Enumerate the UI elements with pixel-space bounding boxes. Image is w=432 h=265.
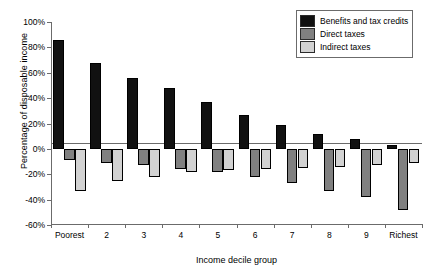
bar — [138, 149, 149, 165]
x-axis-tick-label: 3 — [141, 230, 146, 240]
x-axis-tick-mark — [162, 224, 163, 228]
x-axis-tick-mark — [88, 224, 89, 228]
legend-item-label: Benefits and tax credits — [320, 16, 408, 26]
bar — [324, 149, 335, 191]
legend-item-label: Direct taxes — [320, 29, 365, 39]
bar — [127, 78, 138, 149]
y-axis-tick-mark — [47, 124, 51, 125]
bar — [112, 149, 123, 181]
bar — [313, 134, 324, 149]
x-axis-tick-label: 4 — [178, 230, 183, 240]
legend-item: Benefits and tax credits — [300, 15, 408, 27]
bar — [212, 149, 223, 172]
x-axis-tick-label: 6 — [253, 230, 258, 240]
bar — [350, 139, 361, 149]
bar — [223, 149, 234, 171]
bar — [287, 149, 298, 183]
y-axis-tick-mark — [47, 73, 51, 74]
legend-item: Indirect taxes — [300, 41, 408, 53]
bar — [276, 125, 287, 149]
bar — [298, 149, 309, 168]
x-axis-tick-label: 5 — [216, 230, 221, 240]
bar — [250, 149, 261, 177]
y-axis-tick-mark — [47, 98, 51, 99]
x-axis-tick-label: 8 — [327, 230, 332, 240]
x-axis-tick-mark — [237, 224, 238, 228]
y-axis-tick-mark — [47, 149, 51, 150]
y-axis-tick-mark — [47, 47, 51, 48]
legend-item: Direct taxes — [300, 28, 408, 40]
bar — [372, 149, 383, 165]
x-axis-tick-mark — [422, 224, 423, 228]
bar — [175, 149, 186, 169]
legend-swatch-icon — [300, 28, 315, 40]
bar — [361, 149, 372, 197]
x-axis-tick-label: 2 — [104, 230, 109, 240]
legend-item-label: Indirect taxes — [320, 42, 371, 52]
bar — [398, 149, 409, 210]
x-axis-tick-mark — [125, 224, 126, 228]
bar — [64, 149, 75, 160]
y-axis-line — [51, 22, 52, 225]
bar — [53, 40, 64, 149]
x-axis-tick-mark — [311, 224, 312, 228]
bar — [261, 149, 272, 169]
bar — [239, 115, 250, 149]
bar — [149, 149, 160, 177]
zero-baseline — [51, 143, 422, 144]
x-axis-tick-label: 7 — [290, 230, 295, 240]
x-axis-tick-mark — [274, 224, 275, 228]
x-axis-tick-mark — [199, 224, 200, 228]
bar — [186, 149, 197, 172]
bar — [75, 149, 86, 191]
bar — [101, 149, 112, 163]
y-axis-tick-mark — [47, 22, 51, 23]
bar — [201, 102, 212, 149]
x-axis-title: Income decile group — [51, 255, 422, 265]
bar — [409, 149, 420, 163]
x-axis-tick-mark — [51, 224, 52, 228]
y-axis-tick-mark — [47, 200, 51, 201]
bar — [387, 145, 398, 149]
x-axis-tick-mark — [348, 224, 349, 228]
legend-swatch-icon — [300, 41, 315, 53]
x-axis-tick-label: Richest — [389, 230, 417, 240]
x-axis-tick-label: Poorest — [55, 230, 84, 240]
x-axis-tick-label: 9 — [364, 230, 369, 240]
bar — [90, 63, 101, 149]
bar — [335, 149, 346, 167]
x-axis-tick-mark — [385, 224, 386, 228]
y-axis-tick-mark — [47, 174, 51, 175]
chart-legend: Benefits and tax creditsDirect taxesIndi… — [296, 10, 413, 58]
legend-swatch-icon — [300, 15, 315, 27]
bar — [164, 88, 175, 149]
